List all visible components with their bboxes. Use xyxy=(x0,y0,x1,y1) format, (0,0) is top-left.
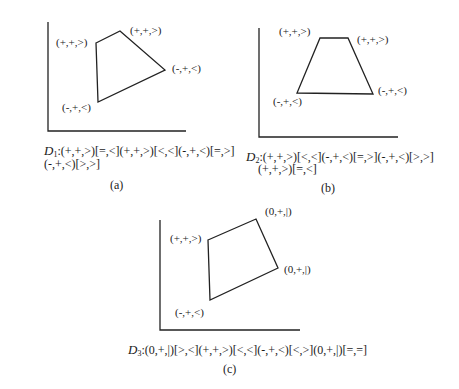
panel-b-caption: (b) xyxy=(321,181,335,196)
panel-c-vertex-label-top-right: (0,+,|) xyxy=(265,205,292,217)
panel-c-caption: (c) xyxy=(223,362,236,377)
panel-b-vertex-label-top-right: (+,+,>) xyxy=(357,33,388,45)
descriptor-symbol: D xyxy=(128,342,137,357)
panel-b-descriptor-line2: (+,+,>)[=,<] xyxy=(258,163,317,176)
panel-b-vertex-label-bottom-left: (-,+,<) xyxy=(273,95,302,107)
descriptor-symbol: D xyxy=(246,149,255,164)
panel-b-vertex-label-right: (-,+,<) xyxy=(378,84,407,96)
panel-c-quadrilateral xyxy=(208,219,278,300)
diagram-canvas xyxy=(0,0,459,389)
panel-c-descriptor: D3:(0,+,|)[>,<](+,+,>)[<,<](-,+,<)[<,>](… xyxy=(128,343,367,360)
descriptor-text: :(0,+,|)[>,<](+,+,>)[<,<](-,+,<)[<,>](0,… xyxy=(141,343,367,357)
panel-c-vertex-label-right: (0,+,|) xyxy=(284,263,311,275)
panel-c-vertex-label-top-left: (+,+,>) xyxy=(170,232,201,244)
panel-a-vertex-label-right: (-,+,<) xyxy=(172,62,201,74)
panel-c-vertex-label-bottom-left: (-,+,<) xyxy=(175,306,204,318)
descriptor-symbol: D xyxy=(44,143,53,158)
panel-b-vertex-label-top-left: (+,+,>) xyxy=(279,25,310,37)
panel-a-vertex-label-top-right: (+,+,>) xyxy=(130,24,161,36)
panel-a-vertex-label-top-left: (+,+,>) xyxy=(56,36,87,48)
panel-a-caption: (a) xyxy=(110,178,123,193)
panel-a-vertex-label-bottom-left: (-,+,<) xyxy=(62,101,91,113)
panel-b-quadrilateral xyxy=(297,38,373,94)
panel-a-quadrilateral xyxy=(96,31,165,102)
descriptor-text: :(+,+,>)[=,<](+,+,>)[<,<](-,+,<)[=,>] xyxy=(57,144,234,158)
panel-a-descriptor-line2: (-,+,<)[>,>] xyxy=(44,158,100,171)
